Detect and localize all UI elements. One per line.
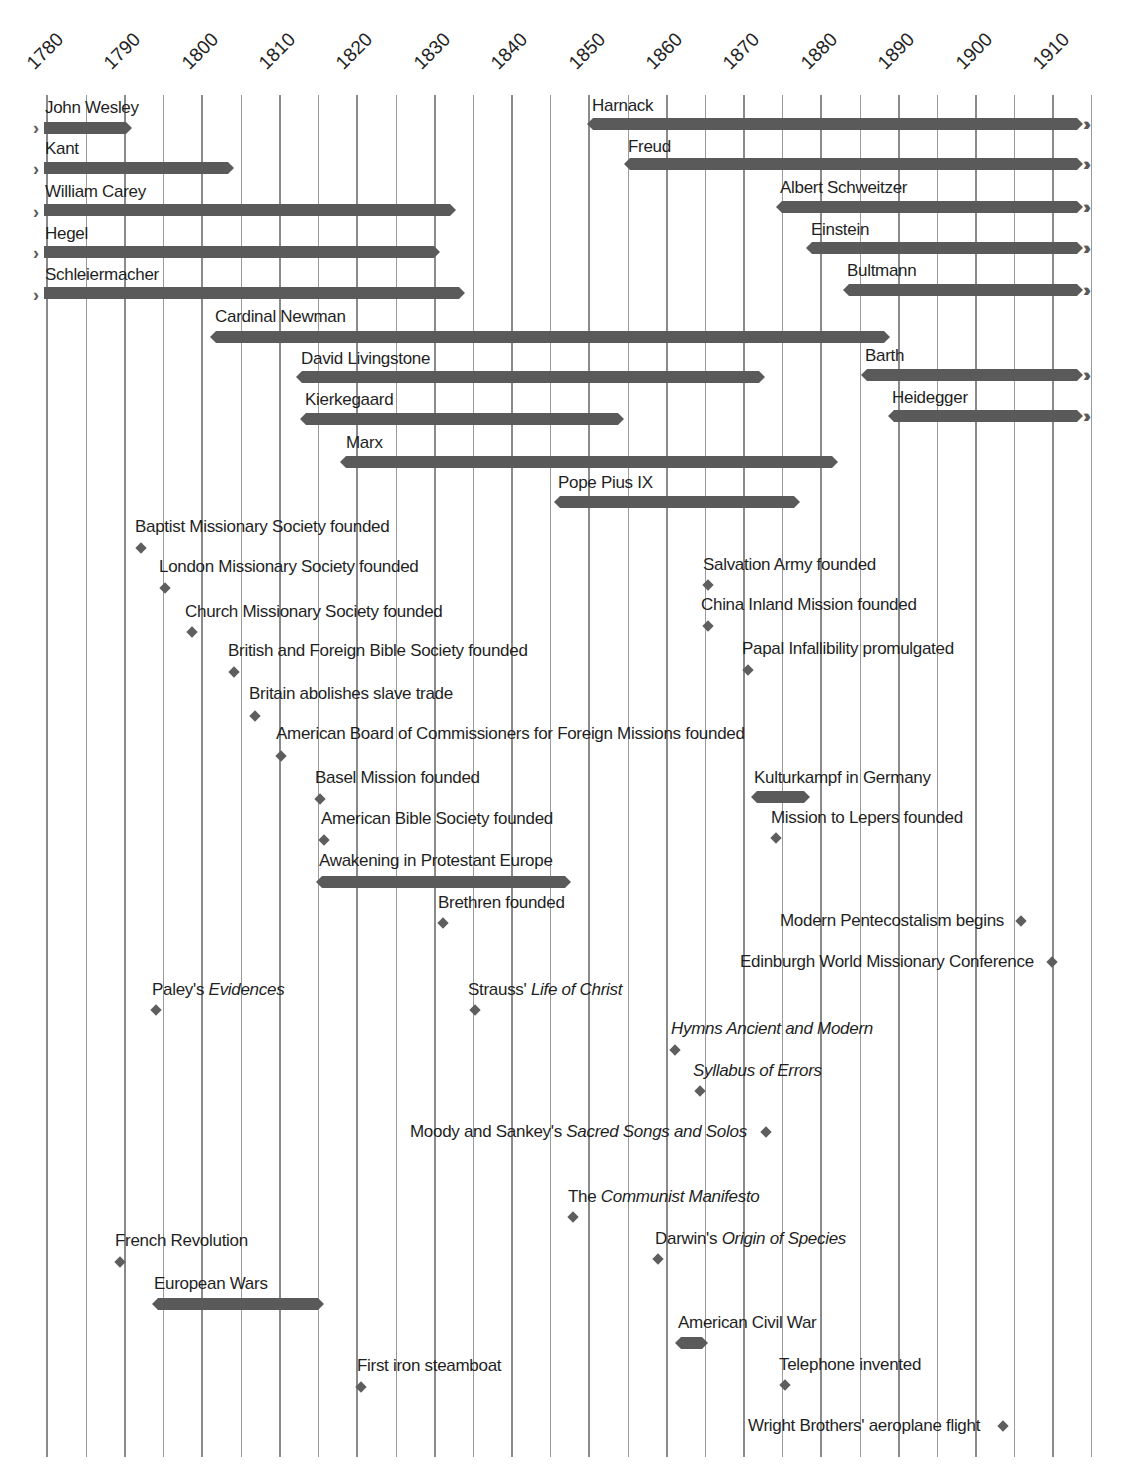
tick-label: 1880 bbox=[796, 29, 841, 74]
event-marker-icon bbox=[186, 626, 197, 637]
tick-label: 1810 bbox=[254, 29, 299, 74]
gridline-1800 bbox=[201, 95, 203, 1457]
event-marker-icon bbox=[135, 542, 146, 553]
continues-after-icon: ››› bbox=[1083, 410, 1086, 422]
event-label-title: Evidences bbox=[209, 980, 285, 999]
event-label: Britain abolishes slave trade bbox=[249, 684, 453, 704]
gridline bbox=[705, 95, 706, 1457]
event-label: Telephone invented bbox=[779, 1355, 921, 1375]
tick-label: 1860 bbox=[641, 29, 686, 74]
person-label: Einstein bbox=[811, 220, 869, 240]
continues-before-icon: › bbox=[33, 289, 39, 301]
tick-label: 1790 bbox=[99, 29, 144, 74]
continues-after-icon: ››› bbox=[1083, 158, 1086, 170]
person-label: Bultmann bbox=[847, 261, 916, 281]
gridline-1860 bbox=[666, 95, 668, 1457]
event-label: Basel Mission founded bbox=[315, 768, 480, 788]
gridline-1780 bbox=[46, 95, 48, 1457]
gridline bbox=[163, 95, 164, 1457]
event-label: Baptist Missionary Society founded bbox=[135, 517, 389, 537]
event-label: Awakening in Protestant Europe bbox=[319, 851, 553, 871]
event-label-text: Paley's bbox=[152, 980, 209, 999]
event-label: Brethren founded bbox=[438, 893, 565, 913]
tick-label: 1910 bbox=[1028, 29, 1073, 74]
event-label-title: Sacred Songs and Solos bbox=[566, 1122, 747, 1141]
person-label: Pope Pius IX bbox=[558, 473, 653, 493]
event-label: Modern Pentecostalism begins bbox=[780, 911, 1004, 931]
event-marker-icon bbox=[318, 834, 329, 845]
continues-after-icon: ››› bbox=[1083, 369, 1086, 381]
event-marker-icon bbox=[437, 917, 448, 928]
gridline-1910 bbox=[1052, 95, 1054, 1457]
lifespan-bar bbox=[861, 369, 1083, 381]
gridline bbox=[937, 95, 938, 1457]
event-marker-icon bbox=[770, 832, 781, 843]
person-label: Hegel bbox=[45, 224, 88, 244]
event-label: American Bible Society founded bbox=[321, 809, 553, 829]
event-label: French Revolution bbox=[115, 1231, 248, 1251]
event-label: American Civil War bbox=[678, 1313, 817, 1333]
event-label: Salvation Army founded bbox=[703, 555, 876, 575]
event-label-text: The bbox=[568, 1187, 601, 1206]
gridline-1870 bbox=[743, 95, 745, 1457]
event-marker-icon bbox=[150, 1004, 161, 1015]
continues-before-icon: › bbox=[33, 247, 39, 259]
event-marker-icon bbox=[275, 750, 286, 761]
person-label: William Carey bbox=[45, 182, 146, 202]
event-marker-icon bbox=[997, 1420, 1008, 1431]
event-label: Edinburgh World Missionary Conference bbox=[740, 952, 1034, 972]
person-label: John Wesley bbox=[45, 98, 139, 118]
event-marker-icon bbox=[159, 582, 170, 593]
tick-label: 1780 bbox=[22, 29, 67, 74]
event-label: The Communist Manifesto bbox=[568, 1187, 760, 1207]
gridline bbox=[628, 95, 629, 1457]
person-label: Albert Schweitzer bbox=[780, 178, 907, 198]
event-marker-icon bbox=[652, 1253, 663, 1264]
lifespan-bar bbox=[624, 158, 1083, 170]
lifespan-bar bbox=[44, 204, 456, 216]
event-marker-icon bbox=[1046, 956, 1057, 967]
event-label: European Wars bbox=[154, 1274, 268, 1294]
event-label: First iron steamboat bbox=[357, 1356, 501, 1376]
event-label: Paley's Evidences bbox=[152, 980, 284, 1000]
person-label: Heidegger bbox=[892, 388, 968, 408]
event-label-title: Communist Manifesto bbox=[601, 1187, 760, 1206]
lifespan-bar bbox=[340, 456, 838, 468]
tick-label: 1850 bbox=[564, 29, 609, 74]
event-label-title: Hymns Ancient and Modern bbox=[671, 1019, 873, 1038]
event-span-bar bbox=[316, 876, 571, 888]
gridline bbox=[1091, 95, 1092, 1457]
tick-label: 1820 bbox=[331, 29, 376, 74]
tick-label: 1890 bbox=[873, 29, 918, 74]
event-label: Mission to Lepers founded bbox=[771, 808, 963, 828]
event-label: Kulturkampf in Germany bbox=[754, 768, 931, 788]
gridline-1790 bbox=[124, 95, 126, 1457]
gridline-1900 bbox=[975, 95, 977, 1457]
tick-label: 1870 bbox=[718, 29, 763, 74]
lifespan-bar bbox=[776, 201, 1083, 213]
event-marker-icon bbox=[249, 710, 260, 721]
lifespan-bar bbox=[44, 287, 465, 299]
event-label-title: Origin of Species bbox=[722, 1229, 846, 1248]
event-label: Hymns Ancient and Modern bbox=[671, 1019, 873, 1039]
person-label: Cardinal Newman bbox=[215, 307, 346, 327]
continues-after-icon: ››› bbox=[1083, 242, 1086, 254]
event-marker-icon bbox=[694, 1085, 705, 1096]
event-label-text: Darwin's bbox=[655, 1229, 722, 1248]
gridline bbox=[241, 95, 242, 1457]
continues-before-icon: › bbox=[33, 206, 39, 218]
gridline-1810 bbox=[279, 95, 281, 1457]
event-span-bar bbox=[751, 791, 810, 803]
event-label: Papal Infallibility promulgated bbox=[742, 639, 954, 659]
tick-label: 1840 bbox=[486, 29, 531, 74]
event-marker-icon bbox=[314, 793, 325, 804]
event-marker-icon bbox=[567, 1211, 578, 1222]
lifespan-bar bbox=[888, 410, 1083, 422]
event-label-text: Moody and Sankey's bbox=[410, 1122, 566, 1141]
person-label: Freud bbox=[628, 137, 671, 157]
continues-before-icon: › bbox=[33, 163, 39, 175]
event-marker-icon bbox=[1015, 915, 1026, 926]
event-span-bar bbox=[152, 1298, 324, 1310]
gridline bbox=[1014, 95, 1015, 1457]
event-label-title: Syllabus of Errors bbox=[693, 1061, 822, 1080]
